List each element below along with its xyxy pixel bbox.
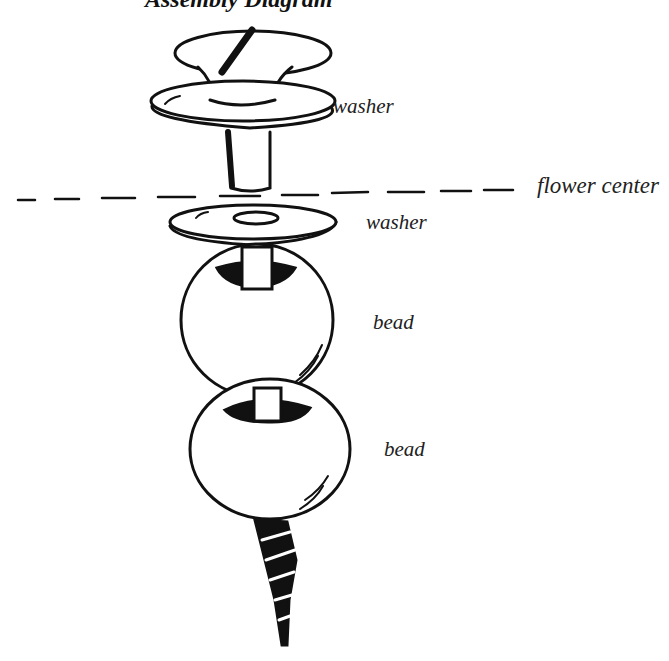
label-washer-bottom: washer — [366, 210, 427, 235]
bead-top-icon — [181, 244, 333, 396]
assembly-diagram: Assembly Diagram — [0, 0, 669, 661]
shaft-icon — [228, 132, 270, 191]
label-bead-top: bead — [373, 310, 414, 335]
label-bead-bottom: bead — [384, 437, 425, 462]
washer-bottom-icon — [170, 205, 336, 245]
screw-icon — [255, 520, 296, 645]
label-flower-center: flower center — [537, 173, 659, 199]
bead-bottom-icon — [190, 379, 350, 519]
flower-center-line — [18, 190, 513, 200]
label-washer-top: washer — [333, 94, 394, 119]
washer-top-icon — [151, 81, 335, 128]
